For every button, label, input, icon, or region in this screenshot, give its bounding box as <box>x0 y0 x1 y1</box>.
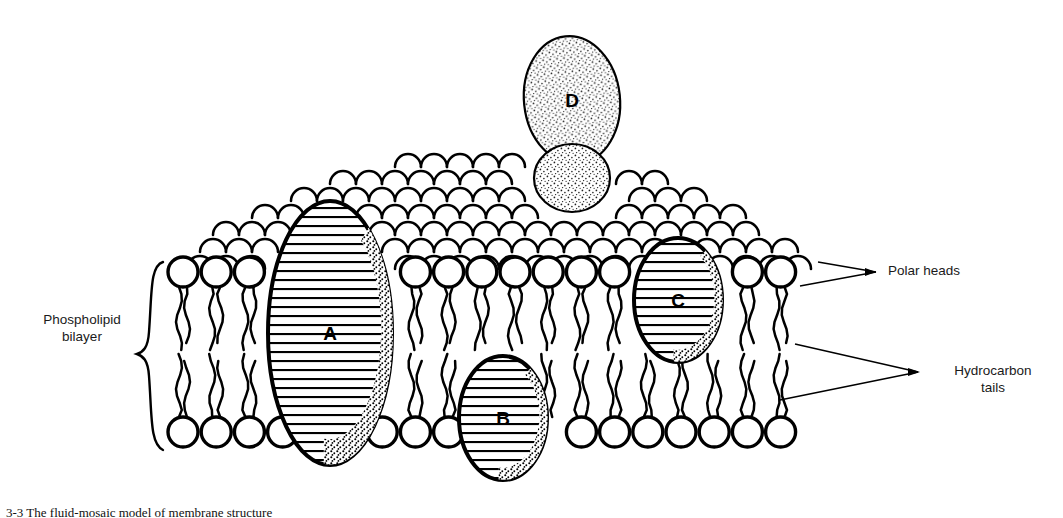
polar-head <box>467 257 497 287</box>
hydrocarbon-tail <box>409 287 415 350</box>
surface-head-scale <box>473 154 499 167</box>
surface-head-scale <box>707 222 733 235</box>
surface-head-scale <box>551 222 577 235</box>
leader-tails-b <box>780 372 918 400</box>
figure-canvas: BACD Phospholipid bilayer Polar heads Hy… <box>0 0 1063 518</box>
protein-d: D <box>518 31 627 212</box>
hydrocarbon-tail <box>242 287 248 350</box>
leader-polar-b <box>800 272 876 286</box>
surface-head-scale <box>512 205 538 218</box>
surface-head-scale <box>408 205 434 218</box>
surface-head-scale <box>668 205 694 218</box>
hydrocarbon-tail <box>715 361 721 417</box>
surface-head-scale <box>486 205 512 218</box>
hydrocarbon-tail <box>575 287 581 350</box>
hydrocarbon-tail <box>616 287 622 343</box>
hydrocarbon-tail <box>450 287 456 343</box>
surface-head-scale <box>200 239 226 252</box>
hydrocarbon-tail <box>549 287 555 343</box>
surface-head-scale <box>252 239 278 252</box>
surface-head-scale <box>499 154 525 167</box>
hydrocarbon-tail <box>774 287 780 350</box>
hydrocarbon-tail <box>748 361 754 417</box>
surface-head-scale <box>616 239 642 252</box>
protein-c: C <box>634 238 723 362</box>
protein-letter: D <box>565 90 579 111</box>
protein-base <box>534 144 610 212</box>
hydrocarbon-tail <box>649 361 655 417</box>
polar-head <box>732 257 762 287</box>
surface-head-scale <box>369 188 395 201</box>
polar-head <box>201 417 231 447</box>
polar-head <box>566 417 596 447</box>
polar-head <box>766 417 796 447</box>
surface-head-scale <box>473 188 499 201</box>
surface-head-scale <box>720 239 746 252</box>
surface-head-scale <box>460 239 486 252</box>
hydrocarbon-tail <box>176 287 182 350</box>
hydrocarbon-tail <box>483 287 489 343</box>
surface-head-scale <box>408 171 434 184</box>
hydrocarbon-tail <box>749 287 755 343</box>
hydrocarbon-tail <box>508 287 514 350</box>
surface-head-scale <box>473 222 499 235</box>
hydrocarbon-tail <box>641 354 647 417</box>
surface-head-scale <box>655 222 681 235</box>
hydrocarbon-tail <box>217 287 223 343</box>
surface-head-scale <box>447 188 473 201</box>
hydrocarbon-tail <box>209 287 215 350</box>
membrane-protein-group: BACD <box>268 31 723 480</box>
surface-head-scale <box>343 188 369 201</box>
hydrocarbon-tail <box>417 287 423 343</box>
surface-head-scale <box>733 222 759 235</box>
surface-head-scale <box>395 154 421 167</box>
surface-head-scale <box>421 222 447 235</box>
surface-head-scale <box>291 188 317 201</box>
hydrocarbon-tail <box>582 287 588 343</box>
polar-head <box>600 417 630 447</box>
hydrocarbon-tail <box>549 361 555 417</box>
hydrocarbon-tail <box>251 361 257 417</box>
surface-head-scale <box>421 154 447 167</box>
surface-head-scale <box>681 222 707 235</box>
polar-head <box>766 257 796 287</box>
surface-head-scale <box>252 205 278 218</box>
hydrocarbon-tail <box>616 361 622 417</box>
label-hydrocarbon-tails: Hydrocarbon tails <box>930 362 1056 396</box>
hydrocarbon-tail <box>442 287 448 350</box>
surface-head-scale <box>681 188 707 201</box>
leader-tails-a <box>795 344 918 372</box>
surface-head-scale <box>603 222 629 235</box>
surface-head-scale <box>395 222 421 235</box>
surface-head-scale <box>434 239 460 252</box>
polar-head <box>400 417 430 447</box>
label-phospholipid-bilayer: Phospholipid bilayer <box>28 311 136 345</box>
polar-head <box>201 257 231 287</box>
surface-head-scale <box>616 205 642 218</box>
hydrocarbon-tail <box>417 361 423 417</box>
polar-head <box>633 417 663 447</box>
surface-head-scale <box>395 188 421 201</box>
leader-lines <box>780 262 920 400</box>
surface-head-scale <box>499 188 525 201</box>
hydrocarbon-tail <box>184 287 190 343</box>
hydrocarbon-tail <box>516 287 522 343</box>
hydrocarbon-tail <box>682 361 688 417</box>
hydrocarbon-tail <box>774 354 780 417</box>
polar-head <box>168 417 198 447</box>
surface-head-scale <box>239 222 265 235</box>
hydrocarbon-tail <box>740 354 746 417</box>
surface-head-scale <box>499 222 525 235</box>
membrane-diagram: BACD <box>0 0 1063 518</box>
surface-head-scale <box>577 222 603 235</box>
polar-head <box>500 257 530 287</box>
leader-tails-arrow <box>908 368 920 376</box>
polar-head <box>566 257 596 287</box>
surface-head-scale <box>642 171 668 184</box>
surface-head-scale <box>460 205 486 218</box>
bilayer-brace <box>137 262 163 450</box>
surface-head-scale <box>408 239 434 252</box>
hydrocarbon-tail <box>475 287 481 350</box>
surface-head-scale <box>772 239 798 252</box>
surface-head-scale <box>226 239 252 252</box>
